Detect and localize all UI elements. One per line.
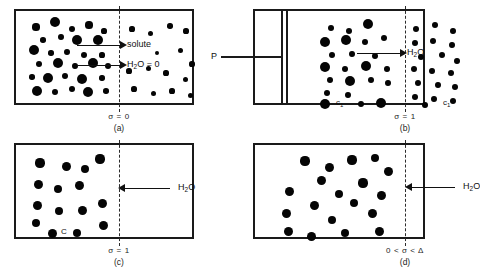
solute-particle-left xyxy=(307,232,316,241)
arrow-head xyxy=(405,183,412,191)
solute-particle-left xyxy=(99,52,104,57)
solute-particle-right xyxy=(169,88,174,93)
solute-particle-left xyxy=(48,229,57,238)
membrane-b xyxy=(405,6,406,112)
solute-particle-right xyxy=(422,102,428,108)
arrow-label: H2O xyxy=(178,183,195,192)
solute-particle-left xyxy=(325,163,334,172)
solute-particle-left xyxy=(349,51,355,57)
arrow-shaft xyxy=(357,53,401,54)
panel-b: PH2Oc1c1σ = 1(b) xyxy=(218,0,435,135)
solute-particle-right xyxy=(183,28,188,33)
solute-particle-left xyxy=(32,23,39,30)
solute-particle-right xyxy=(189,61,194,66)
solute-particle-left xyxy=(375,227,384,236)
panel-d: H2O0 < σ < Δ(d) xyxy=(218,134,435,269)
solute-particle-right xyxy=(126,68,131,73)
solute-particle-left xyxy=(385,80,391,86)
arrow-shaft xyxy=(124,188,170,189)
solute-particle-left xyxy=(83,87,93,97)
solute-particle-left xyxy=(95,154,104,163)
membrane-c xyxy=(119,140,120,246)
solute-particle-left xyxy=(341,35,351,45)
piston-chamber-wall xyxy=(281,9,283,105)
sigma-label-c: σ = 1 xyxy=(74,247,164,255)
solute-particle-left xyxy=(368,209,377,218)
solute-particle-right xyxy=(129,26,134,31)
solute-particle-right xyxy=(454,58,460,64)
solute-particle-left xyxy=(327,77,333,83)
solute-particle-right xyxy=(449,42,455,48)
pressure-label: P xyxy=(211,52,217,61)
solute-particle-left xyxy=(317,176,326,185)
panel-caption-c: (c) xyxy=(74,258,164,267)
solute-particle-right xyxy=(450,28,456,34)
solute-particle-left xyxy=(377,191,386,200)
concentration-label: C xyxy=(61,228,67,236)
arrow-shaft xyxy=(77,65,121,66)
solute-particle-left xyxy=(40,37,46,43)
panel-c: H2OCσ = 1(c) xyxy=(0,134,218,269)
solute-particle-right xyxy=(188,93,193,98)
arrow-label: H2O xyxy=(463,182,480,191)
solute-particle-right xyxy=(131,86,136,91)
solute-particle-left xyxy=(358,101,364,107)
solute-particle-left xyxy=(347,155,356,164)
solute-particle-left xyxy=(64,49,70,55)
right-concentration-label: c1 xyxy=(443,99,450,107)
solute-particle-right xyxy=(432,22,438,28)
solute-particle-left xyxy=(34,180,43,189)
piston-rod xyxy=(221,56,281,58)
solute-particle-right xyxy=(431,96,437,102)
solute-particle-right xyxy=(452,84,458,90)
solute-particle-left xyxy=(342,66,348,72)
solute-particle-right xyxy=(151,91,156,96)
solute-particle-left xyxy=(384,167,393,176)
piston-plate xyxy=(286,9,288,105)
solute-particle-right xyxy=(415,80,421,86)
solute-particle-left xyxy=(310,201,319,210)
solute-particle-left xyxy=(99,221,108,230)
solute-particle-left xyxy=(72,35,82,45)
arrow-shaft xyxy=(77,45,121,46)
membrane-d xyxy=(405,140,406,246)
solute-particle-left xyxy=(103,88,109,94)
solute-particle-left xyxy=(282,209,291,218)
solute-particle-right xyxy=(163,70,168,75)
arrow-label: H2O = 0 xyxy=(127,60,159,69)
solute-particle-left xyxy=(345,92,351,98)
water-arrow xyxy=(411,187,455,188)
solute-particle-left xyxy=(29,74,35,80)
water-arrow xyxy=(124,188,170,189)
arrow-label: H2O xyxy=(407,48,424,57)
water-arrow xyxy=(357,53,401,54)
solute-particle-left xyxy=(362,39,368,45)
water-arrow xyxy=(77,65,121,66)
sigma-label-b: σ = 1 xyxy=(360,113,450,121)
arrow-label: solute xyxy=(127,40,151,49)
left-concentration-label: c1 xyxy=(336,99,343,107)
solute-particle-left xyxy=(300,156,309,165)
arrow-shaft xyxy=(411,187,455,188)
solute-particle-left xyxy=(35,158,44,167)
solute-particle-right xyxy=(412,94,418,100)
solute-particle-left xyxy=(105,63,111,69)
solute-particle-right xyxy=(413,26,419,32)
solute-particle-left xyxy=(85,21,92,28)
solute-particle-left xyxy=(345,76,355,86)
solute-particle-right xyxy=(178,48,183,53)
arrow-head xyxy=(120,41,127,49)
solute-particle-left xyxy=(101,28,106,33)
solute-particle-right xyxy=(450,98,456,104)
solute-particle-right xyxy=(411,66,417,72)
solute-particle-right xyxy=(183,77,188,82)
arrow-head xyxy=(120,61,127,69)
sigma-label-a: σ = 0 xyxy=(74,113,164,121)
arrow-head xyxy=(118,184,125,192)
solute-particle-left xyxy=(284,227,293,236)
solute-particle-right xyxy=(435,82,441,88)
solute-particle-left xyxy=(99,75,104,80)
solute-particle-left xyxy=(78,206,87,215)
solute-particle-right xyxy=(429,68,435,74)
